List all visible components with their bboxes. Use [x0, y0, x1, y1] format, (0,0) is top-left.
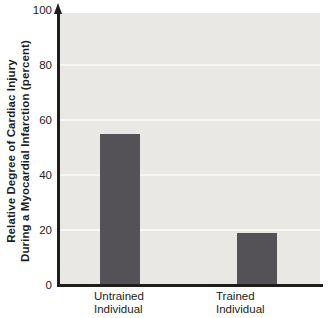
x-category-label-line: Individual [216, 303, 265, 316]
gridline-60 [58, 119, 320, 121]
x-category-label-trained-individual: TrainedIndividual [216, 290, 265, 316]
y-tick-label-100: 100 [0, 3, 52, 17]
x-category-label-untrained-individual: UntrainedIndividual [94, 290, 144, 316]
gridline-40 [58, 174, 320, 176]
gridline-20 [58, 229, 320, 231]
y-axis-line [57, 12, 60, 287]
x-category-label-line: Individual [94, 303, 144, 316]
bar-untrained-individual [100, 134, 140, 285]
bar-trained-individual [237, 233, 277, 285]
y-tick-label-40: 40 [0, 168, 52, 182]
y-tick-label-0: 0 [0, 278, 52, 292]
y-axis-title-line-2: During a Myocardial Infarction (percent) [18, 1, 32, 301]
gridline-80 [58, 64, 320, 66]
y-axis-title: Relative Degree of Cardiac Injury During… [4, 1, 34, 301]
y-tick-label-80: 80 [0, 58, 52, 72]
y-tick-label-60: 60 [0, 113, 52, 127]
bar-chart-figure: Relative Degree of Cardiac Injury During… [0, 0, 328, 318]
plot-area [58, 13, 320, 285]
x-category-label-line: Untrained [94, 290, 144, 303]
y-tick-label-20: 20 [0, 223, 52, 237]
x-axis-line [57, 284, 323, 287]
y-axis-title-line-1: Relative Degree of Cardiac Injury [4, 1, 18, 301]
x-category-label-line: Trained [216, 290, 265, 303]
